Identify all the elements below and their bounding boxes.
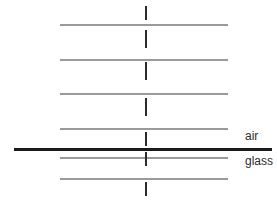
ray-tick-7 [145,182,147,196]
ray-tick-1 [145,6,147,20]
wavefront-line-1 [60,24,228,26]
refraction-diagram-canvas: airglass [0,0,277,202]
medium-label-glass: glass [245,155,273,167]
ray-tick-3 [145,62,147,80]
ray-tick-6 [145,152,147,166]
wavefront-line-2 [60,59,228,61]
wavefront-line-3 [60,93,228,95]
wavefront-line-6 [60,178,228,180]
air-glass-interface-line [14,148,272,151]
wavefront-line-5 [60,157,228,159]
medium-label-air: air [245,130,258,142]
ray-tick-2 [145,30,147,48]
wavefront-line-4 [60,128,228,130]
ray-tick-4 [145,98,147,116]
ray-tick-5 [145,132,147,146]
